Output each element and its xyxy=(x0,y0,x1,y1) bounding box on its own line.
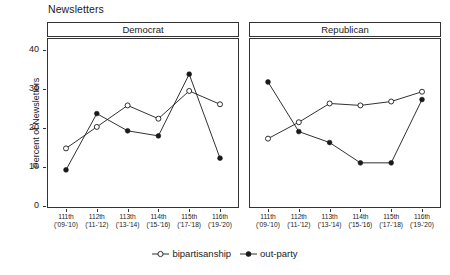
x-tick-mark xyxy=(299,209,300,212)
data-point-bipartisanship xyxy=(266,136,271,141)
data-point-out-party xyxy=(64,167,69,172)
data-point-bipartisanship xyxy=(296,120,301,125)
panel-strip-republican: Republican xyxy=(249,22,441,37)
plot-area-democrat xyxy=(47,38,239,208)
x-tick-mark xyxy=(360,209,361,212)
open-circle-icon xyxy=(152,249,169,259)
x-tick-mark xyxy=(330,209,331,212)
legend-label: out-party xyxy=(260,248,298,259)
data-point-out-party xyxy=(94,111,99,116)
x-tick-congress: 116th xyxy=(198,213,242,221)
x-tick-mark xyxy=(189,209,190,212)
data-point-out-party xyxy=(420,97,425,102)
chart-legend: bipartisanshipout-party xyxy=(0,248,450,259)
data-point-bipartisanship xyxy=(94,124,99,129)
x-tick-congress: 116th xyxy=(400,213,444,221)
series-line-out-party xyxy=(268,82,422,163)
series-line-bipartisanship xyxy=(66,91,220,148)
y-tick-label: 0 xyxy=(17,200,39,210)
y-tick-label: 20 xyxy=(17,122,39,132)
data-point-bipartisanship xyxy=(156,116,161,121)
y-tick-mark xyxy=(43,167,46,168)
x-tick-label: 116th('19-'20) xyxy=(400,213,444,230)
data-point-bipartisanship xyxy=(218,102,223,107)
y-tick-label: 10 xyxy=(17,161,39,171)
x-tick-years: ('19-'20) xyxy=(198,221,242,229)
data-point-out-party xyxy=(327,140,332,145)
data-point-bipartisanship xyxy=(187,88,192,93)
chart-title: Newsletters xyxy=(48,3,104,15)
data-point-out-party xyxy=(187,72,192,77)
panel-strip-democrat: Democrat xyxy=(47,22,239,37)
y-tick-mark xyxy=(43,89,46,90)
data-point-bipartisanship xyxy=(327,101,332,106)
x-tick-years: ('19-'20) xyxy=(400,221,444,229)
data-point-out-party xyxy=(358,160,363,165)
y-tick-mark xyxy=(43,50,46,51)
y-tick-label: 40 xyxy=(17,44,39,54)
data-point-out-party xyxy=(389,160,394,165)
plot-svg xyxy=(250,39,442,209)
legend-item-out-party[interactable]: out-party xyxy=(240,248,298,259)
filled-circle-icon xyxy=(240,249,257,259)
data-point-out-party xyxy=(218,156,223,161)
chart-root: Newsletters Percent of Newsletters 01020… xyxy=(0,0,450,275)
y-tick-mark xyxy=(43,128,46,129)
data-point-out-party xyxy=(296,129,301,134)
data-point-out-party xyxy=(156,133,161,138)
series-line-bipartisanship xyxy=(268,92,422,139)
plot-svg xyxy=(48,39,240,209)
data-point-bipartisanship xyxy=(64,146,69,151)
series-line-out-party xyxy=(66,74,220,170)
x-tick-mark xyxy=(422,209,423,212)
x-tick-mark xyxy=(97,209,98,212)
x-tick-mark xyxy=(158,209,159,212)
legend-item-bipartisanship[interactable]: bipartisanship xyxy=(152,248,231,259)
data-point-bipartisanship xyxy=(420,89,425,94)
x-tick-mark xyxy=(268,209,269,212)
x-tick-mark xyxy=(391,209,392,212)
plot-area-republican xyxy=(249,38,441,208)
x-tick-mark xyxy=(128,209,129,212)
y-tick-mark xyxy=(43,206,46,207)
x-tick-label: 116th('19-'20) xyxy=(198,213,242,230)
data-point-bipartisanship xyxy=(125,103,130,108)
x-tick-mark xyxy=(66,209,67,212)
y-tick-label: 30 xyxy=(17,83,39,93)
data-point-out-party xyxy=(266,80,271,85)
data-point-out-party xyxy=(125,128,130,133)
data-point-bipartisanship xyxy=(389,99,394,104)
data-point-bipartisanship xyxy=(358,103,363,108)
legend-label: bipartisanship xyxy=(172,248,231,259)
x-tick-mark xyxy=(220,209,221,212)
